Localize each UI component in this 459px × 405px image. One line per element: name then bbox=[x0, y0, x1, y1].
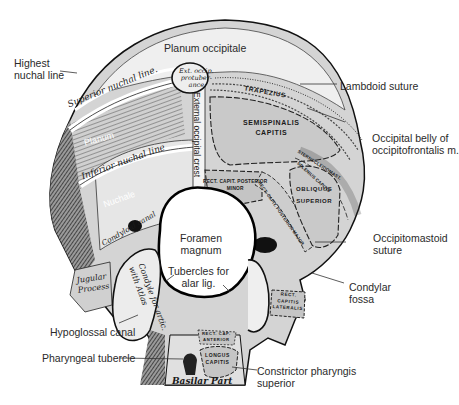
label-longus-capitis: LONGUS CAPITIS bbox=[205, 352, 230, 365]
label-rect-capitis-anterior: RECT. CAP. ANTERIOR bbox=[202, 331, 231, 342]
label-condylar-fossa: Condylar fossa bbox=[349, 281, 391, 305]
label-semispinalis-capitis: SEMISPINALIS CAPITIS bbox=[243, 118, 300, 138]
label-ext-occ-protuberance: Ext. occip. protuber- ance bbox=[179, 68, 214, 89]
label-foramen-magnum: Foramen magnum bbox=[180, 232, 222, 256]
label-hypoglossal-canal: Hypoglossal canal bbox=[50, 326, 135, 338]
label-highest-nuchal-line: Highest nuchal line bbox=[14, 57, 64, 81]
label-constrictor-pharyngis: Constrictor pharyngis superior bbox=[257, 365, 356, 389]
label-occipitomastoid-suture: Occipitomastoid suture bbox=[373, 232, 448, 256]
label-occipital-belly: Occipital belly of occipitofrontalis m. bbox=[372, 132, 459, 156]
label-rect-capitis-lateralis: RECT. CAPITIS LATERALIS bbox=[272, 291, 304, 313]
label-lambdoid-suture: Lambdoid suture bbox=[340, 80, 418, 92]
label-basilar-part: Basilar Part bbox=[172, 376, 232, 386]
label-tubercles-alar: Tubercles for alar lig. bbox=[168, 265, 229, 289]
label-planum-occipitale: Planum occipitale bbox=[164, 42, 246, 54]
label-pharyngeal-tubercle: Pharyngeal tubercle bbox=[42, 352, 135, 364]
label-external-occipital-crest: External occipital crest bbox=[192, 92, 202, 177]
